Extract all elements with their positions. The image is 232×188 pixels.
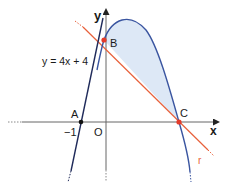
point-a-label: A (71, 108, 79, 120)
tangent-line-dotted-end (68, 171, 71, 182)
point-c-label: C (180, 107, 188, 119)
function-diagram: y x O A B C −1 y = 4x + 4 r (0, 0, 232, 188)
origin-label: O (94, 126, 103, 138)
point-c (176, 119, 181, 124)
point-a (79, 120, 84, 125)
line-r-dotted-end (208, 150, 214, 156)
shaded-region (104, 19, 179, 122)
point-b (101, 37, 106, 42)
tick-label-minus-one: −1 (64, 126, 77, 138)
parabola-dotted-end (190, 172, 191, 182)
tangent-line (71, 18, 103, 171)
tangent-equation-label: y = 4x + 4 (42, 55, 88, 67)
point-b-label: B (110, 37, 117, 49)
line-r-label: r (198, 155, 202, 166)
line-r-dotted-start (75, 21, 83, 27)
x-axis-label: x (210, 124, 217, 138)
y-axis-label: y (94, 8, 102, 23)
